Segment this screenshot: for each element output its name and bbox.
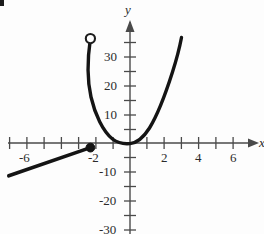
x-tick-label-2: 2 [161, 151, 168, 164]
y-tick-label-20: 20 [104, 79, 117, 92]
y-tick-label-10: 10 [104, 108, 117, 121]
x-tick-label-6: 6 [230, 151, 237, 164]
parabola-curve [88, 38, 181, 144]
y-axis-arrow-icon [126, 20, 135, 32]
y-tick-label-30: 30 [104, 50, 117, 63]
x-axis-label: x [259, 136, 264, 149]
y-tick-label-minus30: -30 [99, 223, 116, 234]
graph-figure: -6 -2 2 4 6 30 20 10 -10 -20 -30 y x [0, 0, 264, 234]
x-tick-label-4: 4 [195, 151, 202, 164]
y-axis-label: y [125, 3, 131, 16]
y-tick-label-minus20: -20 [99, 194, 116, 207]
x-tick-label-minus6: -6 [19, 151, 30, 164]
y-tick-label-minus10: -10 [99, 165, 116, 178]
open-endpoint-dot [86, 34, 95, 43]
coordinate-plane [0, 0, 264, 234]
x-axis-arrow-icon [248, 139, 259, 148]
x-tick-label-minus2: -2 [88, 151, 99, 164]
